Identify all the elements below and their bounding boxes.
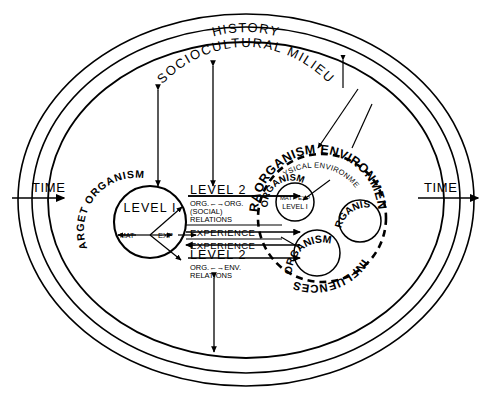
target-organism-circle: [114, 186, 186, 258]
organism-label-3: ORGANISM: [282, 232, 333, 274]
exp-label: EXP: [158, 231, 173, 240]
mat-label: MAT: [120, 232, 135, 239]
time-label-left: TIME: [32, 180, 65, 195]
diagram-canvas: HISTORY SOCIOCULTURAL MILIEU TIME TIME T…: [0, 0, 491, 396]
history-ring-inner: [32, 27, 460, 373]
milieu-inward-arrow-1: [318, 89, 358, 148]
organism-circle-1: [276, 183, 314, 221]
time-label-right: TIME: [424, 180, 457, 195]
level2-env-line2: RELATIONS: [190, 271, 232, 280]
level2-env-heading: LEVEL 2: [190, 248, 247, 262]
extraorganism-label-bottom: INFLUENCES: [291, 258, 370, 295]
level2-social-heading: LEVEL 2: [190, 183, 247, 197]
organism-1-core-top: MAT↔EXP: [280, 195, 310, 201]
milieu-inward-arrow-2: [352, 104, 372, 148]
sociocultural-label: SOCIOCULTURAL MILIEU: [154, 35, 338, 86]
organism-1-core-bottom: LEVEL I: [282, 203, 307, 210]
level2-social-line3: RELATIONS: [190, 215, 232, 224]
experience-heading-1: EXPERIENCE: [190, 227, 255, 238]
level1-core-label: LEVEL I: [123, 201, 176, 215]
systems-diagram-svg: HISTORY SOCIOCULTURAL MILIEU TIME TIME T…: [0, 0, 491, 396]
